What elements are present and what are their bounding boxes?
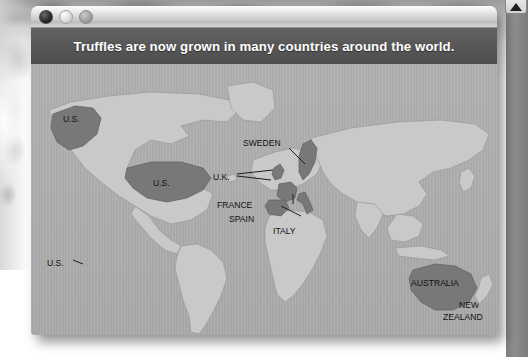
- label-continental-us: U.S.: [153, 178, 170, 188]
- label-spain: SPAIN: [229, 214, 254, 224]
- application-window: Truffles are now grown in many countries…: [31, 6, 497, 335]
- region-france: [277, 182, 297, 202]
- land-new-zealand: [475, 274, 493, 304]
- land-south-america: [175, 244, 227, 334]
- leader-line-hawaii: [73, 260, 83, 264]
- world-map: U.S. U.S. U.S. SWEDEN U.K. FRANCE SPAIN …: [31, 64, 497, 335]
- land-japan: [459, 168, 475, 192]
- label-australia: AUSTRALIA: [411, 278, 459, 288]
- label-france: FRANCE: [217, 200, 253, 210]
- label-italy: ITALY: [273, 226, 296, 236]
- vertical-scrollbar[interactable]: [506, 0, 528, 357]
- land-indonesia: [395, 246, 449, 260]
- land-southeast-asia: [387, 214, 423, 242]
- minimize-button-icon[interactable]: [59, 10, 73, 24]
- headline-text: Truffles are now grown in many countries…: [74, 39, 455, 54]
- triangle-up-icon: [510, 3, 522, 11]
- close-button-icon[interactable]: [39, 10, 53, 24]
- scroll-up-arrow-icon[interactable]: [505, 0, 527, 14]
- land-africa: [265, 210, 327, 302]
- headline-banner: Truffles are now grown in many countries…: [31, 28, 497, 64]
- label-new-zealand-line2: ZEALAND: [443, 312, 483, 322]
- window-controls: [39, 10, 93, 24]
- window-titlebar[interactable]: [31, 6, 497, 28]
- land-greenland: [227, 82, 275, 122]
- label-alaska: U.S.: [63, 114, 80, 124]
- label-hawaii: U.S.: [47, 258, 64, 268]
- land-asia: [311, 120, 489, 216]
- label-sweden: SWEDEN: [243, 138, 281, 148]
- zoom-button-icon[interactable]: [79, 10, 93, 24]
- world-map-svg: U.S. U.S. U.S. SWEDEN U.K. FRANCE SPAIN …: [31, 64, 497, 335]
- label-united-kingdom: U.K.: [213, 172, 230, 182]
- label-new-zealand-line1: NEW: [459, 300, 480, 310]
